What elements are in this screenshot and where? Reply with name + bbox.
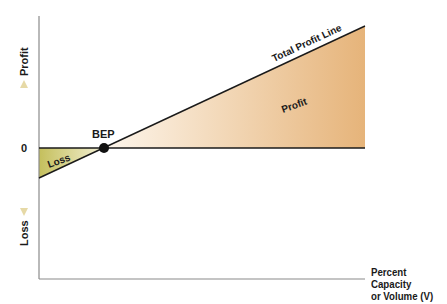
break-even-chart: Profit Loss 0 BEP Loss Profit Total Prof… bbox=[0, 0, 447, 304]
bep-marker bbox=[99, 143, 109, 153]
loss-axis-label: Loss bbox=[18, 220, 30, 246]
bep-label: BEP bbox=[92, 128, 115, 140]
zero-label: 0 bbox=[21, 142, 27, 154]
loss-arrow-icon bbox=[20, 161, 28, 216]
x-axis-label-line2: or Volume (V) bbox=[371, 290, 438, 302]
profit-arrow-icon bbox=[20, 80, 28, 135]
x-axis-label: Percent Capacity or Volume (V) bbox=[371, 266, 438, 302]
x-axis-label-line1: Percent Capacity bbox=[371, 266, 438, 290]
profit-axis-label: Profit bbox=[18, 47, 30, 76]
